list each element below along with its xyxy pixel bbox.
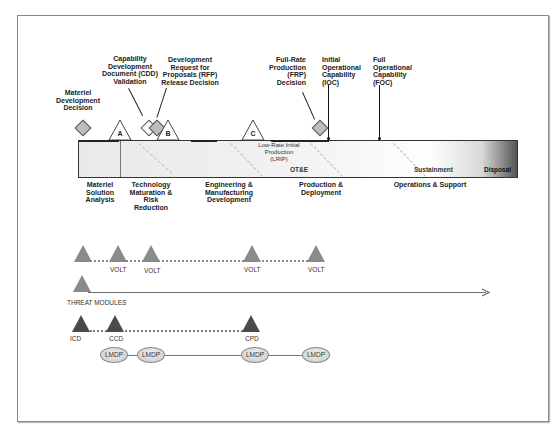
label-disposal: Disposal — [484, 166, 511, 173]
label-cdd-validation: Capability Development Document (CDD) Va… — [100, 55, 160, 85]
volt-label-2: VOLT — [144, 267, 161, 274]
label-frp-decision: Full-Rate Production (FRP) Decision — [262, 56, 306, 86]
milestone-c-label: C — [247, 130, 259, 138]
milestone-a-label: A — [114, 130, 126, 138]
phase-technology-maturation: Technology Maturation & Risk Reduction — [123, 181, 179, 211]
msa-topline — [79, 140, 119, 142]
milestone-b-label: B — [162, 130, 174, 138]
ccd-label: CCD — [109, 335, 123, 342]
volt-triangle-3 — [243, 245, 261, 262]
volt-triangle-1 — [109, 245, 127, 262]
acquisition-phase-bar: Low-Rate Initial Production (LRIP) OT&E … — [78, 140, 518, 178]
threat-modules-triangle — [73, 275, 91, 292]
label-sustainment: Sustainment — [414, 166, 453, 173]
cpd-label: CPD — [245, 335, 259, 342]
phase-emd: Engineering & Manufacturing Development — [197, 181, 261, 204]
phase-operations-support: Operations & Support — [385, 181, 475, 189]
volt-label-4: VOLT — [308, 266, 325, 273]
threat-modules-label: THREAT MODULES — [67, 299, 126, 306]
phase-materiel-solution-analysis: Materiel Solution Analysis — [78, 181, 122, 204]
icd-label: ICD — [70, 335, 81, 342]
lmdp-oval-2: LMDP — [137, 347, 165, 363]
volt-label-1: VOLT — [110, 266, 127, 273]
tmrr-dashed-divider — [138, 143, 172, 174]
ioc-line — [328, 85, 329, 140]
emd-topline — [191, 140, 217, 142]
msa-divider — [120, 141, 121, 177]
label-foc: Full Operational Capability (FOC) — [373, 56, 417, 86]
cpd-triangle — [242, 315, 260, 332]
label-rfp-release-decision: Development Request for Proposals (RFP) … — [159, 56, 221, 86]
volt-start-triangle — [74, 245, 92, 262]
label-lrip: Low-Rate Initial Production (LRIP) — [249, 142, 309, 163]
phase-production-deployment: Production & Deployment — [291, 181, 351, 196]
lmdp-oval-3: LMDP — [241, 347, 269, 363]
lmdp-oval-1: LMDP — [100, 347, 128, 363]
label-ote: OT&E — [290, 166, 308, 173]
ccd-triangle — [106, 315, 124, 332]
volt-triangle-4 — [307, 245, 325, 262]
volt-label-3: VOLT — [244, 266, 261, 273]
threat-modules-line — [88, 292, 486, 293]
label-ioc: Initial Operational Capability (IOC) — [322, 56, 366, 86]
icd-triangle — [72, 315, 90, 332]
foc-line — [379, 85, 380, 140]
volt-triangle-2 — [142, 245, 160, 262]
threat-modules-arrowhead-icon — [481, 288, 491, 297]
lmdp-oval-4: LMDP — [302, 347, 330, 363]
label-materiel-development-decision: Materiel Development Decision — [50, 89, 106, 112]
pd-dashed-divider — [310, 143, 343, 177]
